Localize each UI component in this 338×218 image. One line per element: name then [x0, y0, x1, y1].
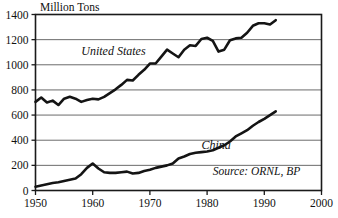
- data-series-group: [36, 20, 276, 187]
- coal-production-chart: Million Tons 0200400600800100012001400 1…: [0, 0, 338, 218]
- x-tick-label: 1950: [24, 197, 47, 209]
- x-axis-ticks: 195019601970198019902000: [24, 191, 333, 209]
- y-tick-label: 400: [11, 134, 29, 146]
- series-annotation-united-states: United States: [81, 44, 146, 58]
- source-annotation: Source: ORNL, BP: [213, 165, 300, 178]
- y-tick-label: 0: [23, 185, 29, 197]
- y-tick-label: 600: [11, 109, 29, 121]
- chart-title: Million Tons: [40, 1, 100, 13]
- y-tick-label: 1200: [6, 34, 29, 46]
- y-tick-label: 1000: [6, 59, 29, 71]
- x-tick-label: 1990: [253, 197, 276, 209]
- x-tick-label: 1970: [138, 197, 161, 209]
- y-tick-label: 800: [11, 84, 29, 96]
- x-tick-label: 1960: [81, 197, 104, 209]
- y-tick-label: 200: [11, 159, 29, 171]
- chart-canvas: Million Tons 0200400600800100012001400 1…: [0, 0, 338, 218]
- x-tick-label: 1980: [196, 197, 219, 209]
- plot-frame: [36, 15, 322, 191]
- y-tick-label: 1400: [6, 9, 29, 21]
- x-tick-label: 2000: [310, 197, 333, 209]
- series-annotation-china: China: [201, 138, 230, 152]
- y-axis-ticks: 0200400600800100012001400: [6, 9, 36, 197]
- series-line-united-states: [36, 20, 276, 105]
